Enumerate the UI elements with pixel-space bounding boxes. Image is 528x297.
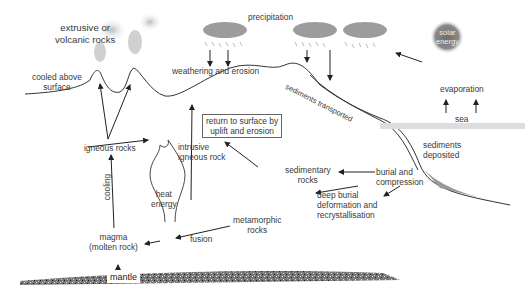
label-heat-energy: heatenergy <box>151 189 177 209</box>
label-sedimentary-rocks: sedimentaryrocks <box>285 165 331 185</box>
rain-icon <box>205 42 375 48</box>
rain-cloud-icon <box>203 22 387 38</box>
label-igneous-rocks: igneous rocks <box>84 143 136 153</box>
label-fusion: fusion <box>190 234 212 244</box>
label-return-to-surface: return to surface byuplift and erosion <box>202 114 282 138</box>
label-deep-burial: deep burialdeformation andrecrystallisat… <box>317 190 378 220</box>
label-burial-compression: burial andcompression <box>376 167 423 187</box>
sea-surface <box>380 123 525 129</box>
label-magma: magma(molten rock) <box>89 232 138 252</box>
label-intrusive-igneous: intrusiveigneous rock <box>178 142 226 162</box>
label-metamorphic-rocks: metamorphicrocks <box>233 215 281 235</box>
label-precipitation: precipitation <box>248 12 293 22</box>
label-solar-energy: solarenergy <box>436 28 459 46</box>
label-sea: sea <box>455 114 469 124</box>
label-weathering-erosion: weathering and erosion <box>172 66 259 76</box>
label-mantle: mantle <box>107 272 140 283</box>
label-extrusive: extrusive orvolcanic rocks <box>55 22 115 46</box>
label-evaporation: evaporation <box>440 84 484 94</box>
mantle-layer <box>20 271 400 285</box>
label-cooled-above-surface: cooled abovesurface <box>32 72 82 92</box>
label-sediments-deposited: sedimentsdeposited <box>423 140 461 160</box>
label-cooling: cooling <box>102 174 112 201</box>
